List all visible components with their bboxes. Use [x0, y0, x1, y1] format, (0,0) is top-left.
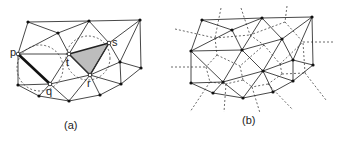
- panel-a-triangulation: [17, 20, 141, 101]
- delaunay-figure: [0, 0, 342, 143]
- vertex-label-q: q: [46, 86, 52, 97]
- vertex-label-s: s: [112, 37, 118, 48]
- shaded-triangle-rst: [69, 43, 109, 75]
- vertex-label-r: r: [87, 78, 91, 89]
- caption-a: (a): [64, 119, 77, 131]
- panel-b-triangulation: [191, 17, 313, 98]
- vertex-label-p: p: [10, 47, 16, 58]
- caption-b: (b): [242, 114, 255, 126]
- highlighted-edge-pq: [18, 54, 50, 84]
- vertex-label-t: t: [66, 57, 69, 68]
